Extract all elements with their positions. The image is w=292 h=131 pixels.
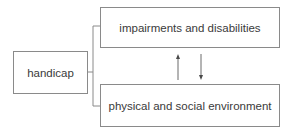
node-handicap: handicap xyxy=(13,51,88,94)
node-physical-and-social-environment: physical and social environment xyxy=(100,84,280,127)
node-label: impairments and disabilities xyxy=(119,22,260,34)
arrow-down-icon xyxy=(199,54,203,80)
arrow-up-icon xyxy=(176,54,180,80)
node-label: physical and social environment xyxy=(108,100,271,112)
node-impairments-and-disabilities: impairments and disabilities xyxy=(100,7,280,48)
node-label: handicap xyxy=(27,67,74,79)
